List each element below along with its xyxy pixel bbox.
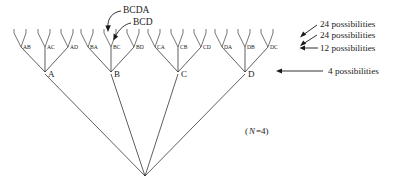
pair-label-da: DA [224,44,232,50]
bcda-arrow-head [105,25,110,32]
bcd-leader-curve [115,23,131,37]
pair-label-ac: AC [47,44,55,50]
legend-label-2: 24 possibilities [320,30,376,40]
trunk-lines [45,74,245,176]
pair-label-ba: BA [90,44,98,50]
n-note-rest: =4) [256,126,269,136]
trunk-line-a [45,74,145,176]
pair-label-ca: CA [157,44,165,50]
pair-label-db: DB [247,44,255,50]
group-a: AB AC AD A [14,29,78,79]
pair-label-cb: CB [180,44,188,50]
pair-label-cd: CD [203,44,211,50]
tip-bd-1 [127,33,134,47]
tip-dc-1 [261,33,268,47]
branch-a-ab [21,47,45,72]
annotation-bcd: BCD [113,17,152,40]
tip-db-1 [238,33,245,47]
group-d: DA DB DC D [215,29,278,79]
pair-label-ad: AD [70,44,78,50]
tip-cd-1 [194,33,201,47]
legend-label-4: 4 possibilities [328,66,379,76]
tip-ca-1 [148,33,155,47]
pair-label-ab: AB [23,44,31,50]
branch-b-ba [88,47,111,72]
tip-ba-1 [81,33,88,47]
tip-ac-1 [38,33,45,47]
trunk-line-d [145,74,245,176]
tip-bc-1 [104,33,111,47]
n-note-symbol: N [248,126,256,136]
tip-cb-1 [171,33,178,47]
pair-label-bc: BC [113,44,121,50]
bcda-label: BCDA [123,5,150,15]
branch-c-ca [155,47,178,72]
legend-arrow-1-line [303,25,317,35]
root-label-d: D [248,69,255,79]
root-label-b: B [114,69,120,79]
legend-label-3: 12 possibilities [320,43,376,53]
tip-da-1 [215,33,222,47]
permutation-tree-figure: AB AC AD A BA BC BD B [0,0,403,186]
group-c: CA CB CD C [148,29,211,79]
legend-arrows [276,25,323,74]
tip-ad-1 [61,33,68,47]
legend-arrow-4-head [276,68,282,73]
trunk-line-b [111,74,145,176]
legend-arrow-1-head [300,31,306,37]
bcd-label: BCD [133,17,153,27]
legend-label-1: 24 possibilities [320,19,376,29]
legend-arrow-2-head [300,40,306,46]
pair-label-dc: DC [270,44,278,50]
branch-d-da [222,47,245,72]
root-label-c: C [181,69,187,79]
group-b: BA BC BD B [81,29,144,79]
n-value-note: ( N =4) [245,126,269,136]
root-label-a: A [48,69,55,79]
tree-diagram-svg: AB AC AD A BA BC BD B [0,0,403,186]
pair-label-bd: BD [136,44,144,50]
tip-ab-1 [14,33,21,47]
trunk-line-c [145,74,178,176]
legend-arrow-3-head [300,46,306,51]
n-note-open: ( [245,126,248,136]
legend-labels: 24 possibilities 24 possibilities 12 pos… [320,19,379,76]
